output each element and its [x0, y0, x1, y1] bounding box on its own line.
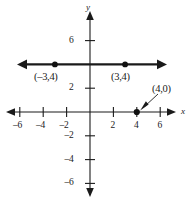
x-tick-label--6: –6	[13, 121, 22, 131]
coordinate-plane-figure: x y –6 –4 –2 2 4 6 6 2 –2 –4 –6 (–3,4) (…	[0, 0, 191, 199]
point-label-4-0: (4,0)	[152, 84, 171, 95]
y-tick-label--4: –4	[65, 155, 74, 165]
x-axis	[6, 107, 176, 117]
y-tick-label-2: 2	[69, 83, 74, 93]
x-axis-arrow-right-icon	[167, 108, 176, 116]
x-tick-label-2: 2	[111, 121, 116, 131]
plotted-points	[52, 62, 140, 116]
y-axis-label: y	[86, 3, 90, 12]
leader-arrow-head-icon	[140, 101, 148, 110]
coordinate-plane-canvas	[0, 0, 191, 199]
leader-arrow-to-point-4-0	[140, 94, 158, 111]
y-axis-arrow-down-icon	[86, 188, 94, 197]
point-dot-3-4	[122, 62, 128, 68]
point-label-3-4: (3,4)	[111, 72, 130, 83]
horizontal-ray-y-equals-4	[17, 60, 167, 70]
ray-arrow-right-icon	[157, 60, 167, 70]
point-dot-4-0	[134, 109, 140, 115]
y-axis	[85, 11, 95, 197]
x-tick-label-4: 4	[134, 121, 139, 131]
x-tick-label-6: 6	[158, 121, 163, 131]
y-tick-label-6: 6	[69, 36, 74, 46]
x-axis-label: x	[181, 107, 185, 116]
y-tick-label--6: –6	[65, 178, 74, 188]
point-label-neg3-4: (–3,4)	[34, 72, 58, 83]
x-axis-arrow-left-icon	[6, 108, 15, 116]
x-tick-label--4: –4	[36, 121, 45, 131]
y-axis-arrow-up-icon	[86, 11, 94, 20]
point-dot-neg3-4	[52, 62, 58, 68]
ray-arrow-left-icon	[17, 60, 27, 70]
y-tick-label--2: –2	[65, 131, 74, 141]
